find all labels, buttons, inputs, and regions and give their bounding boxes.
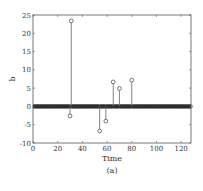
- x-tick-label: 40: [78, 145, 87, 153]
- y-tick-label: 10: [22, 66, 31, 74]
- x-tick-label: 60: [103, 145, 112, 153]
- stem-chart: 020406080100120 -10-50510152025 Time b (…: [0, 0, 203, 191]
- plot-frame: [33, 15, 191, 143]
- stem-series: [68, 19, 134, 133]
- x-tick-label: 20: [53, 145, 62, 153]
- stem-marker: [98, 129, 102, 133]
- x-tick-label: 100: [150, 145, 163, 153]
- y-tick-label: 25: [22, 12, 31, 20]
- y-tick-label: 0: [27, 103, 31, 111]
- x-tick-label: 0: [31, 145, 35, 153]
- x-tick-label: 80: [127, 145, 136, 153]
- y-tick-label: 20: [22, 30, 31, 38]
- y-tick-label: -10: [20, 140, 31, 148]
- stem-marker: [118, 87, 122, 91]
- x-tick-label: 120: [174, 145, 187, 153]
- y-tick-label: -5: [24, 121, 31, 129]
- stem-marker: [104, 119, 108, 123]
- zero-baseline-markers: [33, 104, 193, 108]
- x-axis-ticks: 020406080100120: [31, 15, 188, 153]
- stem-marker: [69, 19, 73, 23]
- stem-marker: [111, 80, 115, 84]
- y-tick-label: 5: [27, 85, 31, 93]
- x-axis-label: Time: [102, 154, 122, 163]
- y-axis-ticks: -10-50510152025: [20, 12, 191, 148]
- stem-marker: [130, 78, 134, 82]
- stem-marker: [68, 114, 72, 118]
- figure: 020406080100120 -10-50510152025 Time b (…: [0, 0, 203, 191]
- figure-caption: (a): [106, 166, 117, 175]
- y-tick-label: 15: [22, 48, 31, 56]
- y-axis-label: b: [8, 76, 17, 81]
